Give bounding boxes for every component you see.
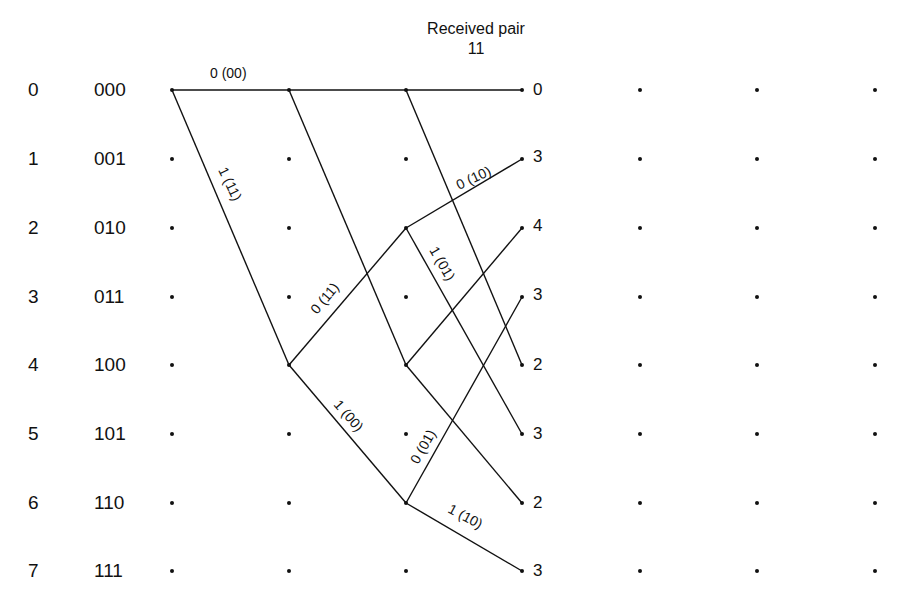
trellis-edge <box>406 90 522 365</box>
trellis-node <box>755 226 759 230</box>
trellis-node <box>755 501 759 505</box>
trellis-node <box>638 226 642 230</box>
trellis-node <box>638 295 642 299</box>
trellis-node <box>638 363 642 367</box>
trellis-node <box>755 157 759 161</box>
trellis-node <box>873 569 877 573</box>
trellis-edge <box>406 297 522 503</box>
edge-label: 0 (11) <box>307 279 342 317</box>
trellis-node <box>404 432 408 436</box>
trellis-node <box>170 432 174 436</box>
trellis-node <box>873 363 877 367</box>
trellis-node <box>287 501 291 505</box>
trellis-node <box>287 432 291 436</box>
trellis-node <box>638 501 642 505</box>
edge-label: 1 (01) <box>426 244 458 284</box>
path-metric: 3 <box>533 147 542 167</box>
path-metric: 3 <box>533 424 542 444</box>
trellis-node <box>873 88 877 92</box>
trellis-node <box>638 432 642 436</box>
edge-label: 1 (00) <box>331 396 367 434</box>
trellis-node <box>404 295 408 299</box>
trellis-node <box>287 569 291 573</box>
trellis-node <box>287 157 291 161</box>
trellis-node <box>873 226 877 230</box>
path-metric: 2 <box>533 355 542 375</box>
path-metric: 3 <box>533 561 542 581</box>
trellis-node <box>170 226 174 230</box>
trellis-node <box>755 88 759 92</box>
path-metric: 3 <box>533 285 542 305</box>
trellis-node <box>404 157 408 161</box>
edge-label: 0 (00) <box>210 65 247 81</box>
trellis-edges <box>172 90 522 571</box>
trellis-node <box>404 569 408 573</box>
trellis-node <box>873 432 877 436</box>
trellis-diagram: 0 (00) 1 (11) 0 (11) 1 (00) 0 (10) 1 (01… <box>0 0 907 612</box>
trellis-node <box>873 501 877 505</box>
trellis-nodes <box>170 88 877 573</box>
trellis-node <box>170 569 174 573</box>
trellis-node <box>873 157 877 161</box>
trellis-node <box>287 295 291 299</box>
trellis-edge <box>289 365 406 503</box>
edge-label: 1 (11) <box>215 164 245 203</box>
trellis-node <box>170 501 174 505</box>
trellis-node <box>755 569 759 573</box>
trellis-edge <box>406 228 522 365</box>
trellis-node <box>170 363 174 367</box>
trellis-edge <box>289 90 406 365</box>
trellis-node <box>755 295 759 299</box>
trellis-edge <box>172 90 289 365</box>
trellis-node <box>755 363 759 367</box>
trellis-edge <box>289 228 406 365</box>
trellis-node <box>638 157 642 161</box>
trellis-node <box>170 295 174 299</box>
trellis-edge <box>406 228 522 434</box>
trellis-node <box>287 226 291 230</box>
trellis-node <box>755 432 759 436</box>
path-metric: 0 <box>533 80 542 100</box>
path-metric: 2 <box>533 493 542 513</box>
trellis-node <box>638 569 642 573</box>
trellis-node <box>638 88 642 92</box>
trellis-edge <box>406 159 522 228</box>
edge-label: 1 (10) <box>446 501 486 532</box>
trellis-node <box>170 157 174 161</box>
trellis-node <box>873 295 877 299</box>
edge-label: 0 (01) <box>407 427 439 467</box>
path-metric: 4 <box>533 216 542 236</box>
